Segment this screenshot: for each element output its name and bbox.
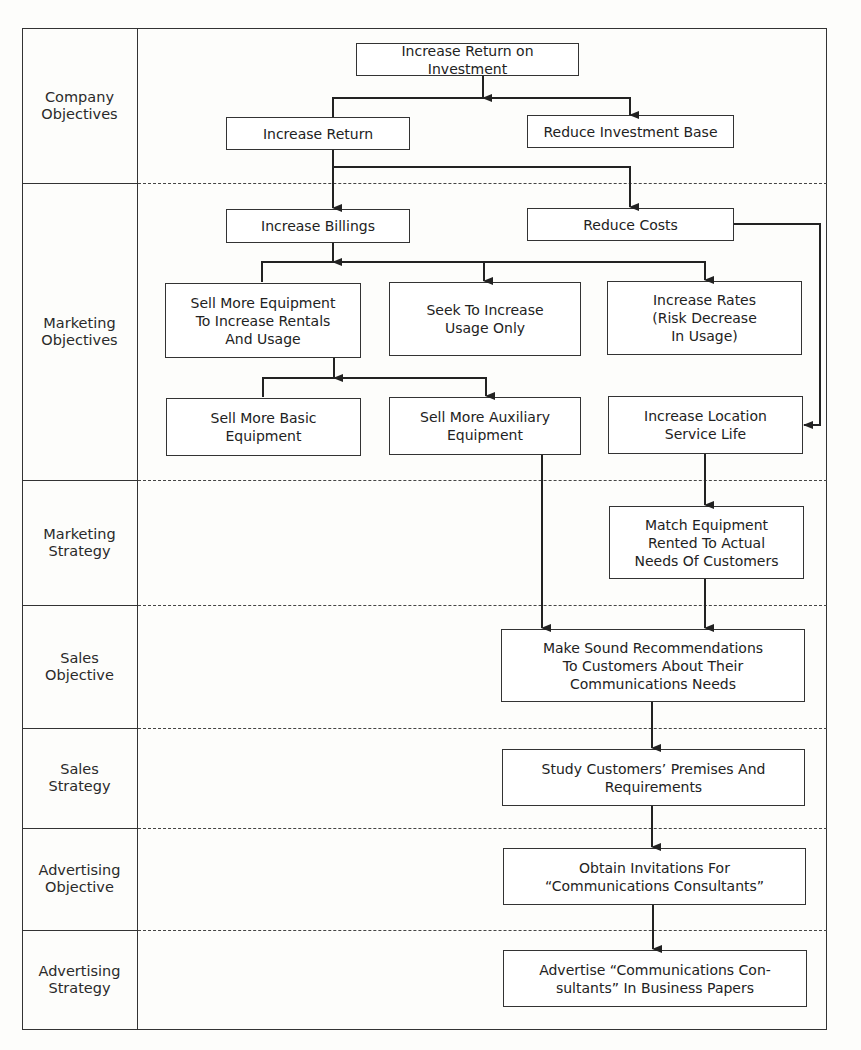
row-label-company-objectives: Company Objectives <box>22 28 137 183</box>
row-separator-label <box>22 728 137 729</box>
row-label-sales-strategy: Sales Strategy <box>22 728 137 828</box>
box-sell-basic-equipment: Sell More Basic Equipment <box>166 398 361 456</box>
box-obtain-invitations: Obtain Invitations For “Communications C… <box>503 848 806 905</box>
box-make-recommendations: Make Sound Recommendations To Customers … <box>501 629 805 702</box>
row-label-sales-objective: Sales Objective <box>22 605 137 728</box>
box-sell-auxiliary-equipment: Sell More Auxiliary Equipment <box>389 397 581 455</box>
box-seek-increase-usage: Seek To Increase Usage Only <box>389 282 581 356</box>
diagram-canvas: Company ObjectivesMarketing ObjectivesMa… <box>0 0 861 1050</box>
row-separator-dashed <box>138 930 827 931</box>
box-increase-billings: Increase Billings <box>226 209 410 243</box>
box-advertise-consultants: Advertise “Communications Con- sultants”… <box>503 950 807 1007</box>
box-increase-rates: Increase Rates (Risk Decrease In Usage) <box>607 281 802 355</box>
box-match-equipment: Match Equipment Rented To Actual Needs O… <box>609 506 804 579</box>
box-increase-location-life: Increase Location Service Life <box>608 396 803 454</box>
box-reduce-costs: Reduce Costs <box>527 208 734 241</box>
row-separator-label <box>22 605 137 606</box>
box-increase-roi: Increase Return on Investment <box>356 43 579 76</box>
row-separator-label <box>22 828 137 829</box>
row-separator-dashed <box>138 605 827 606</box>
row-separator-dashed <box>138 183 827 184</box>
box-sell-more-equipment: Sell More Equipment To Increase Rentals … <box>165 283 361 358</box>
label-column-divider <box>137 28 138 1030</box>
row-separator-dashed <box>138 828 827 829</box>
row-separator-label <box>22 930 137 931</box>
box-increase-return: Increase Return <box>226 117 410 150</box>
row-label-marketing-objectives: Marketing Objectives <box>22 183 137 480</box>
row-separator-dashed <box>138 480 827 481</box>
row-label-marketing-strategy: Marketing Strategy <box>22 480 137 605</box>
box-study-premises: Study Customers’ Premises And Requiremen… <box>502 749 805 806</box>
row-separator-label <box>22 480 137 481</box>
row-separator-dashed <box>138 728 827 729</box>
row-label-advertising-strategy: Advertising Strategy <box>22 930 137 1030</box>
row-separator-label <box>22 183 137 184</box>
row-label-advertising-objective: Advertising Objective <box>22 828 137 930</box>
box-reduce-investment-base: Reduce Investment Base <box>527 115 734 148</box>
